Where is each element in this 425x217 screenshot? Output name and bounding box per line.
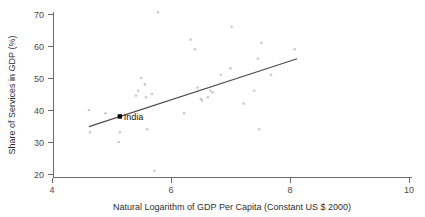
scatter-point (146, 128, 149, 131)
scatter-point (140, 77, 143, 80)
scatter-point (253, 90, 256, 93)
scatter-point-layer (88, 11, 296, 172)
scatter-point (207, 96, 210, 99)
scatter-point (260, 42, 263, 45)
scatter-point (145, 96, 148, 99)
scatter-point (220, 74, 223, 77)
y-axis-title: Share of Services in GDP (%) (7, 36, 17, 155)
scatter-point (196, 86, 199, 89)
scatter-point (229, 67, 232, 70)
y-tick-label: 20 (34, 170, 44, 180)
x-tick-label: 8 (287, 185, 292, 195)
y-tick-label: 30 (34, 138, 44, 148)
scatter-point (242, 102, 245, 105)
scatter-point (194, 48, 197, 51)
y-tick-group: 70 60 50 40 30 20 (34, 10, 53, 180)
scatter-point (144, 83, 147, 86)
y-tick-label: 50 (34, 74, 44, 84)
y-tick-label: 70 (34, 10, 44, 20)
scatter-point (135, 94, 138, 97)
scatter-point (88, 109, 91, 112)
scatter-point (104, 112, 107, 115)
scatter-chart: 70 60 50 40 30 20 4 6 8 10 (0, 0, 425, 217)
scatter-point (257, 58, 260, 61)
scatter-point (157, 11, 160, 14)
scatter-point (270, 74, 273, 77)
scatter-point (153, 170, 156, 173)
scatter-point (189, 38, 192, 41)
x-tick-label: 10 (404, 185, 414, 195)
scatter-point (209, 90, 212, 93)
annotation-layer: India (118, 112, 144, 122)
scatter-point (258, 128, 261, 131)
highlighted-point-india (118, 114, 122, 118)
point-label-india: India (124, 112, 144, 122)
x-tick-group: 4 6 8 10 (49, 178, 414, 196)
scatter-point (211, 91, 214, 94)
scatter-point (151, 93, 154, 96)
scatter-point (293, 48, 296, 51)
scatter-point (117, 141, 120, 144)
x-tick-label: 6 (168, 185, 173, 195)
plot-area: 70 60 50 40 30 20 4 6 8 10 (0, 0, 425, 217)
y-tick-label: 40 (34, 106, 44, 116)
scatter-point (183, 112, 186, 115)
x-tick-label: 4 (49, 185, 54, 195)
scatter-point (230, 26, 233, 29)
y-tick-label: 60 (34, 42, 44, 52)
scatter-point (119, 131, 122, 134)
scatter-point (201, 99, 204, 102)
scatter-point (89, 131, 92, 134)
x-axis-title: Natural Logarithm of GDP Per Capita (Con… (113, 202, 351, 212)
scatter-point (137, 90, 140, 93)
